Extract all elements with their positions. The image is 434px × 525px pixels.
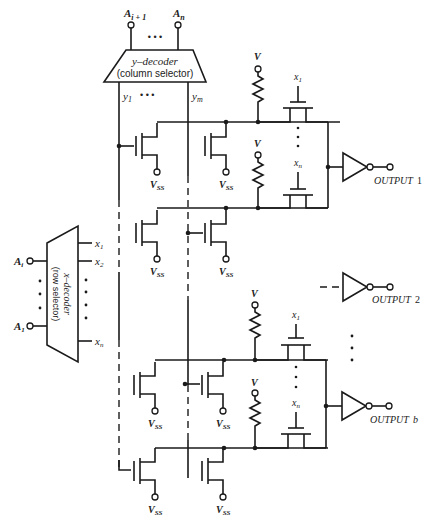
svg-text:xn: xn [94,335,104,349]
inverter-icon [343,273,367,301]
y-decoder-title: y–decoder [131,55,179,67]
svg-text:OUTPUTb: OUTPUTb [370,414,418,425]
output-2-stage: OUTPUT2 [320,273,420,361]
transistor-icon [205,210,229,262]
svg-text:ym: ym [191,90,203,104]
bit-line-group-1: VSS VSS V x1 V xn [117,51,422,279]
y-input-last-label: A [172,7,180,19]
transistor-icon [136,210,160,262]
input-terminal-icon [128,22,134,28]
resistor-icon [253,72,263,106]
svg-text:Ai + 1: Ai + 1 [123,7,146,22]
resistor-icon [253,158,263,192]
resistor-icon [250,396,260,430]
y-input-first-label: A [123,7,131,19]
transistor-icon [205,123,229,175]
svg-text:A1: A1 [13,320,25,334]
x-decoder-title: x–decoder [62,272,73,315]
svg-text:VSS: VSS [150,266,165,279]
x-decoder: x–decoder (row selector) Ai A1 x1 x2 xn [13,226,104,362]
svg-text:Ai: Ai [13,255,23,269]
svg-text:VSS: VSS [150,179,165,192]
resistor-icon [250,308,260,342]
svg-text:OUTPUT2: OUTPUT2 [372,294,420,305]
svg-text:VSS: VSS [219,266,234,279]
transistor-icon [136,123,160,175]
svg-text:xn: xn [291,397,300,410]
svg-text:xn: xn [293,157,302,170]
transistor-icon [134,362,158,414]
svg-text:y–decoder: y–decoder [131,55,179,67]
svg-text:V: V [251,288,259,299]
transistor-icon [202,448,226,500]
output-terminal-icon [387,164,393,170]
svg-text:x1: x1 [293,71,302,84]
inverter-icon [342,392,366,420]
output-2-label: OUTPUT [372,294,412,305]
svg-text:An: An [172,7,185,22]
svg-text:VSS: VSS [219,179,234,192]
bit-line-group-b: V x1 VSS VSS V xn [131,288,418,517]
output-1-label: OUTPUT [374,175,414,186]
x-decoder-subtitle: (row selector) [51,267,61,322]
svg-text:VSS: VSS [216,418,231,431]
svg-text:OUTPUT1: OUTPUT1 [374,175,422,186]
transistor-icon [134,448,158,500]
output-terminal-icon [387,284,393,290]
svg-text:x1: x1 [291,309,300,322]
ellipsis: • • • [148,32,162,42]
svg-text:x1: x1 [94,237,103,251]
y-decoder-subtitle: (column selector) [117,68,194,79]
output-terminal-icon [386,403,392,409]
svg-text:V: V [254,138,262,149]
svg-text:V: V [251,377,259,388]
svg-text:x2: x2 [94,255,104,269]
transistor-icon [202,362,226,414]
svg-text:VSS: VSS [148,418,163,431]
inverter-icon [343,153,367,181]
rom-circuit-diagram: y–decoder (column selector) Ai + 1 An • … [0,0,434,525]
input-terminal-icon [175,22,181,28]
svg-text:VSS: VSS [148,504,163,517]
svg-text:• • •: • • • [140,90,154,100]
svg-text:V: V [254,51,262,62]
svg-text:y1: y1 [122,90,132,104]
output-b-label: OUTPUT [370,414,410,425]
svg-text:VSS: VSS [216,504,231,517]
